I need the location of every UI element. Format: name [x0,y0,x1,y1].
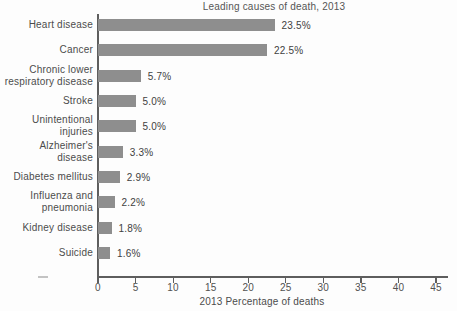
plot-area: 23.5%22.5%5.7%5.0%5.0%3.3%2.9%2.2%1.8%1.… [98,14,436,276]
bar [98,146,123,158]
value-label: 22.5% [274,45,303,56]
x-tick [173,278,174,283]
category-label: Influenza and pneumonia [0,190,93,214]
x-tick-label: 10 [158,282,188,293]
scan-artifact-dash [38,276,48,278]
bar [98,222,112,234]
category-label: Chronic lower respiratory disease [0,64,93,88]
x-tick-label: 20 [233,282,263,293]
bar [98,247,110,259]
bar-chart-figure: Leading causes of death, 2013 23.5%22.5%… [0,0,457,311]
x-tick-label: 35 [346,282,376,293]
x-tick-label: 15 [196,282,226,293]
value-label: 23.5% [282,20,311,31]
category-label: Heart disease [0,19,93,31]
bar [98,19,275,31]
category-label: Kidney disease [0,222,93,234]
x-tick-label: 5 [121,282,151,293]
value-label: 2.9% [127,171,151,182]
category-label: Alzheimer's disease [0,140,93,164]
category-label: Unintentional injuries [0,114,93,138]
x-tick-label: 0 [83,282,113,293]
x-tick [210,278,211,283]
bar [98,95,136,107]
x-tick-label: 40 [383,282,413,293]
value-label: 5.0% [143,95,167,106]
value-label: 3.3% [130,146,154,157]
x-tick [248,278,249,283]
x-tick [323,278,324,283]
x-tick [435,278,436,283]
value-label: 1.8% [119,222,143,233]
bar [98,120,136,132]
value-label: 1.6% [117,247,141,258]
category-label: Cancer [0,44,93,56]
value-label: 5.7% [148,70,172,81]
x-tick [398,278,399,283]
x-axis-line [97,276,448,278]
category-label: Suicide [0,247,93,259]
category-label: Diabetes mellitus [0,171,93,183]
value-label: 2.2% [122,197,146,208]
category-label: Stroke [0,95,93,107]
bar [98,171,120,183]
x-axis-label: 2013 Percentage of deaths [93,296,431,307]
x-tick [135,278,136,283]
value-label: 5.0% [143,121,167,132]
bar [98,70,141,82]
x-tick-label: 25 [271,282,301,293]
x-tick-label: 45 [421,282,451,293]
x-tick-label: 30 [308,282,338,293]
bar [98,44,267,56]
x-tick [360,278,361,283]
bar [98,196,115,208]
chart-title: Leading causes of death, 2013 [98,1,450,12]
x-tick [285,278,286,283]
